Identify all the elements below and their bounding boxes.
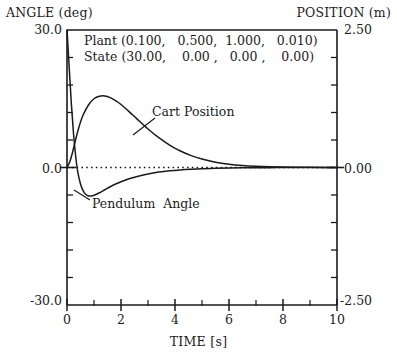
- plot-canvas: [0, 0, 397, 361]
- cart-position-curve: [67, 96, 337, 168]
- plot-figure: ANGLE (deg) POSITION (m) 30.0 0.0 -30.0 …: [0, 0, 397, 361]
- pendulum-angle-curve: [67, 30, 337, 196]
